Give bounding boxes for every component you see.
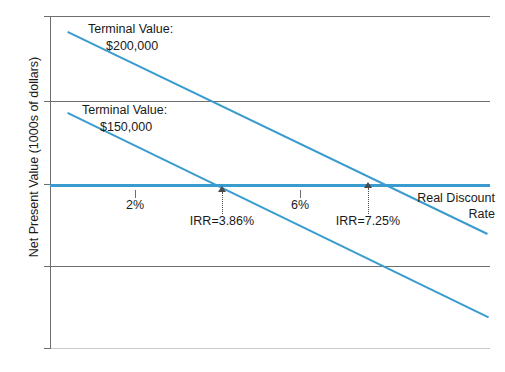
x-tick-label-2pct: 2%: [126, 198, 144, 212]
annotation-150k-line2: $150,000: [100, 119, 167, 136]
y-axis-title: Net Present Value (1000s of dollars): [27, 27, 41, 287]
npv-irr-chart: Net Present Value (1000s of dollars) 100…: [0, 0, 505, 372]
y-tick-100: [44, 16, 51, 17]
y-tick-neg100: [44, 348, 51, 349]
x-axis-title-line2: Rate: [469, 207, 495, 221]
annotation-150k-line1: Terminal Value:: [82, 103, 167, 117]
x-axis-title: Real Discount Rate: [345, 190, 495, 223]
irr-label-386: IRR=3.86%: [190, 214, 254, 228]
gridline-neg50: [50, 266, 490, 267]
x-tick-6pct: [300, 190, 301, 198]
annotation-terminal-200k: Terminal Value: $200,000: [88, 21, 173, 55]
annotation-terminal-150k: Terminal Value: $150,000: [82, 102, 167, 136]
chart-baseline: [50, 348, 490, 349]
x-axis-title-line1: Real Discount: [417, 191, 495, 205]
y-axis-spine: [50, 16, 51, 348]
annotation-200k-line2: $200,000: [106, 38, 173, 55]
y-tick-50: [44, 101, 51, 102]
x-tick-2pct: [135, 190, 136, 198]
annotation-200k-line1: Terminal Value:: [88, 22, 173, 36]
gridline-100: [50, 16, 490, 17]
zero-npv-line: [50, 184, 490, 187]
x-tick-label-6pct: 6%: [291, 198, 309, 212]
irr-stem-386: [222, 192, 223, 214]
y-tick-neg50: [44, 266, 51, 267]
